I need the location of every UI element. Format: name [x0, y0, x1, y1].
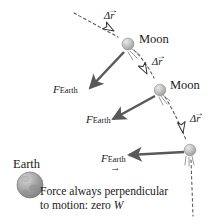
- physics-diagram: Δr→ Δr→ Δr→ Moon Moon Earth F→Earth F→Ea…: [0, 0, 220, 224]
- force-label-3: F→Earth: [101, 153, 126, 164]
- force-label-2: F→Earth: [86, 114, 111, 125]
- vector-bar-icon: →: [156, 51, 166, 61]
- diagram-caption: Force always perpendicular to motion: ze…: [40, 185, 216, 213]
- moon-3-body: [184, 144, 196, 166]
- caption-line-2: to motion: zero W: [40, 199, 216, 213]
- displacement-arrow-3: [177, 122, 186, 134]
- displacement-label-2: Δr→: [152, 57, 162, 68]
- vector-bar-icon: →: [108, 5, 118, 15]
- displacement-label-3: Δr→: [190, 114, 200, 125]
- force-label-1: F→Earth: [53, 84, 78, 95]
- moon-label-2: Moon: [170, 79, 200, 92]
- force-arrow-1: [90, 52, 124, 88]
- force-arrow-3: [129, 152, 184, 155]
- delta-r-text-3: Δr→: [190, 113, 200, 124]
- vector-bar-icon: →: [194, 108, 204, 118]
- force-vector-bar-2: →: [176, 223, 186, 224]
- moon-1-body: [122, 38, 140, 60]
- moon-label-1: Moon: [139, 33, 169, 46]
- force-symbol-2: F: [86, 113, 93, 125]
- delta-r-text-1: Δr→: [104, 10, 114, 21]
- force-subscript-2: Earth: [93, 116, 111, 125]
- force-subscript-1: Earth: [60, 86, 78, 95]
- force-symbol-3: F: [101, 152, 108, 164]
- caption-line-2-text: to motion: zero: [40, 199, 114, 212]
- displacement-label-1: Δr→: [104, 11, 114, 22]
- caption-line-1: Force always perpendicular: [40, 185, 216, 199]
- moon-label-1-text: Moon: [139, 32, 169, 46]
- force-arrows-group: [90, 52, 184, 155]
- force-subscript-3: Earth: [108, 155, 126, 164]
- earth-label-text: Earth: [13, 157, 40, 171]
- moon-label-2-text: Moon: [170, 78, 200, 92]
- force-vector-bar-1: →: [110, 163, 120, 173]
- force-arrow-2: [113, 96, 155, 119]
- delta-r-text-2: Δr→: [152, 56, 162, 67]
- force-symbol-1: F: [53, 83, 60, 95]
- earth-label: Earth: [13, 158, 40, 171]
- work-symbol: W: [114, 199, 124, 212]
